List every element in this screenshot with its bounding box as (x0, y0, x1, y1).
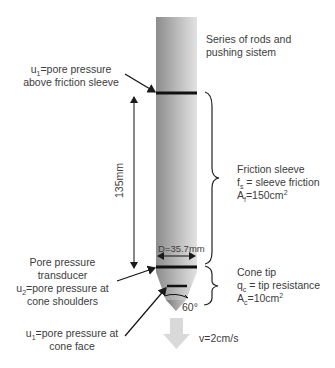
angle-label: 60° (182, 301, 198, 314)
friction-sleeve-label: Friction sleeve fs = sleeve friction Af=… (237, 163, 320, 202)
cone-tip-brace (204, 266, 218, 305)
rod-body (156, 17, 197, 300)
u1-sleeve-leader (125, 74, 155, 92)
length-dimension-label: 135mm (113, 163, 126, 198)
friction-sleeve-brace (205, 92, 219, 264)
rod-label: Series of rods and pushing sistem (206, 33, 291, 59)
u1-face-leader (125, 288, 166, 336)
transducer-label: Pore pressure transducer u2=pore pressur… (10, 256, 115, 308)
u2-leader (117, 268, 155, 281)
u1-sleeve-label: u1=pore pressure above friction sleeve (20, 63, 122, 89)
cone-tip-label: Cone tip qc = tip resistance Ac=10cm2 (237, 266, 320, 305)
push-direction-arrow (163, 318, 190, 349)
velocity-label: v=2cm/s (199, 332, 238, 345)
u1-face-label: u1=pore pressure at cone face (22, 327, 122, 353)
diameter-label: D=35.7mm (158, 242, 205, 255)
